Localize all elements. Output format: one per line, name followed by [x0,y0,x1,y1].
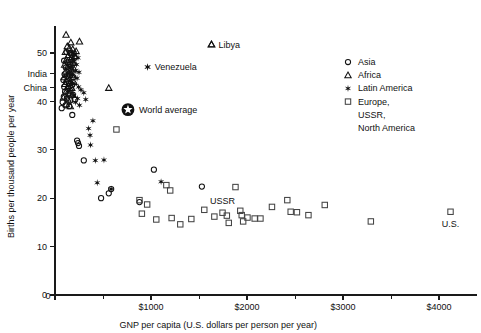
y-tick-label: 20 [37,193,47,203]
x-tick-label: $1000 [138,302,163,312]
marker-circle-asia [137,199,142,204]
legend-marker-triangle [345,72,351,78]
marker-triangle-africa [208,41,215,47]
marker-circle-asia [70,112,75,117]
marker-square-europe [189,216,194,221]
marker-star-latin-america [92,157,98,164]
marker-star-latin-america [87,141,93,148]
marker-square-europe [178,222,183,227]
series-latin-america [67,51,164,192]
y-tick-label: 30 [37,145,47,155]
annotation-venezuela: Venezuela [155,62,197,72]
marker-star-latin-america [90,117,96,124]
legend: AsiaAfricaLatin AmericaEurope,USSR,North… [345,57,415,133]
marker-square-europe [144,202,149,207]
marker-square-europe [322,202,327,207]
x-axis-title: GNP per capita (U.S. dollars per person … [119,320,316,330]
x-tick-label: $3000 [330,302,355,312]
legend-label-ussr: USSR, [358,110,386,120]
marker-square-europe [154,217,159,222]
marker-square-europe [448,209,453,214]
marker-star-latin-america [87,132,93,139]
marker-circle-asia [98,196,103,201]
marker-square-europe [168,188,173,193]
marker-square-europe [294,210,299,215]
annotation-china: China [23,83,47,93]
legend-marker-square [345,99,350,104]
legend-label-latin-america: Latin America [358,83,413,93]
x-tick-label: $2000 [234,302,259,312]
marker-circle-asia [199,184,204,189]
marker-star-latin-america [144,63,151,71]
y-tick-label: 10 [37,242,47,252]
series-europe-ussr-north-america [114,127,453,227]
marker-square-europe [258,216,263,221]
annotation-india: India [27,69,47,79]
legend-marker-star [345,85,351,92]
marker-triangle-africa [106,85,112,91]
marker-square-europe [139,211,144,216]
axes [55,26,477,295]
marker-star-latin-america [94,179,100,186]
marker-circle-asia [151,167,156,172]
y-tick-label: 50 [37,48,47,58]
annotation-u-s: U.S. [442,219,460,229]
legend-marker-circle [345,59,350,64]
marker-square-europe [212,214,217,219]
chart-container: 010203040500$1000$2000$3000$4000 IndiaCh… [0,0,481,333]
marker-square-europe [306,212,311,217]
y-axis-title: Births per thousand people per year [6,95,16,238]
x-tick-label: $4000 [426,302,451,312]
marker-square-europe [233,184,238,189]
marker-star-latin-america [76,102,82,109]
scatter-plot: 010203040500$1000$2000$3000$4000 IndiaCh… [0,0,481,333]
legend-label-africa: Africa [358,70,381,80]
marker-star-latin-america [101,156,107,163]
marker-square-europe [252,216,257,221]
legend-label-north-america: North America [358,123,415,133]
marker-square-europe [169,215,174,220]
marker-triangle-africa [68,39,74,45]
marker-circle-asia [81,158,86,163]
annotation-libya: Libya [218,40,240,50]
marker-square-europe [285,197,290,202]
legend-label-asia: Asia [358,57,376,67]
marker-square-europe [202,207,207,212]
marker-square-europe [164,182,169,187]
marker-square-europe [114,127,119,132]
marker-square-europe [269,204,274,209]
marker-square-europe [226,220,231,225]
marker-square-europe [288,209,293,214]
marker-triangle-africa [63,32,69,38]
marker-star-latin-america [85,125,91,132]
marker-triangle-africa [76,38,82,44]
annotation-ussr: USSR [210,196,236,206]
marker-star-latin-america [83,96,89,103]
marker-square-europe [368,219,373,224]
x-tick-label: 0 [45,291,50,301]
legend-label-europe: Europe, [358,97,390,107]
series-asia [59,49,204,204]
y-tick-label: 40 [37,97,47,107]
annotation-world-average: World average [139,105,197,115]
